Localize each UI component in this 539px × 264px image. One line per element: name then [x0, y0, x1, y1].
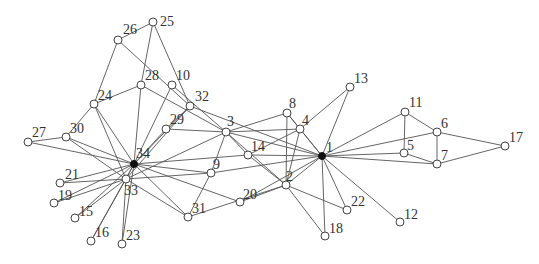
node-label: 17	[509, 130, 523, 145]
node-circle	[396, 218, 404, 226]
hub-node-circle	[319, 153, 326, 160]
node-circle	[433, 160, 441, 168]
node-12: 12	[396, 207, 418, 226]
edge-1-9	[211, 156, 322, 173]
edge-25-32	[153, 22, 190, 106]
edge-20-34	[134, 164, 240, 202]
node-circle	[50, 199, 58, 207]
edge-1-12	[322, 156, 400, 222]
node-3: 3	[222, 114, 234, 136]
node-label: 33	[124, 183, 138, 198]
node-20: 20	[236, 187, 257, 206]
node-8: 8	[283, 96, 296, 117]
node-27: 27	[24, 125, 46, 146]
node-label: 11	[409, 95, 422, 110]
node-label: 3	[227, 114, 234, 129]
node-7: 7	[433, 148, 448, 168]
node-label: 14	[251, 139, 265, 154]
node-label: 10	[176, 68, 190, 83]
node-19: 19	[50, 188, 72, 207]
node-circle	[118, 240, 126, 248]
node-24: 24	[90, 88, 112, 108]
node-label: 30	[70, 121, 84, 136]
node-2: 2	[282, 169, 293, 189]
node-label: 27	[32, 125, 46, 140]
node-label: 9	[213, 157, 220, 172]
node-label: 13	[354, 71, 368, 86]
node-label: 24	[98, 88, 112, 103]
node-label: 25	[160, 14, 174, 29]
edge-6-17	[437, 132, 505, 146]
node-label: 29	[170, 112, 184, 127]
edge-6-11	[405, 112, 437, 132]
node-30: 30	[62, 121, 84, 141]
node-label: 26	[123, 22, 137, 37]
edge-5-11	[404, 112, 405, 153]
edge-1-7	[322, 156, 437, 164]
node-label: 23	[126, 228, 140, 243]
edge-3-29	[166, 129, 226, 132]
edge-1-6	[322, 132, 437, 156]
edge-30-34	[66, 137, 134, 164]
node-circle	[343, 206, 351, 214]
node-circle	[149, 18, 157, 26]
node-circle	[90, 100, 98, 108]
node-25: 25	[149, 14, 174, 29]
node-circle	[401, 108, 409, 116]
node-4: 4	[296, 113, 309, 133]
node-circle	[137, 81, 145, 89]
node-circle	[122, 175, 130, 183]
node-31: 31	[184, 201, 206, 221]
node-circle	[62, 133, 70, 141]
edge-3-14	[226, 132, 248, 155]
node-circle	[184, 213, 192, 221]
node-6: 6	[433, 116, 448, 136]
node-layer: 1234567891011121314151617181920212223242…	[24, 14, 523, 248]
edge-27-34	[28, 142, 134, 164]
node-23: 23	[118, 228, 140, 248]
node-label: 28	[145, 68, 159, 83]
edge-31-34	[134, 164, 188, 217]
edge-1-3	[226, 132, 322, 156]
node-label: 22	[351, 194, 365, 209]
node-circle	[222, 128, 230, 136]
node-28: 28	[137, 68, 159, 89]
node-16: 16	[87, 225, 109, 245]
node-circle	[87, 237, 95, 245]
node-label: 15	[79, 204, 93, 219]
node-label: 32	[195, 89, 209, 104]
node-label: 2	[286, 169, 293, 184]
node-circle	[71, 214, 79, 222]
edge-1-22	[322, 156, 347, 210]
node-circle	[168, 81, 176, 89]
node-9: 9	[207, 157, 220, 177]
node-circle	[114, 36, 122, 44]
node-label: 4	[302, 113, 309, 128]
node-circle	[162, 125, 170, 133]
hub-node-circle	[131, 161, 138, 168]
edge-1-18	[322, 156, 325, 236]
node-label: 18	[329, 221, 343, 236]
edge-24-34	[94, 104, 134, 164]
node-label: 8	[289, 96, 296, 111]
node-13: 13	[346, 71, 368, 91]
node-label: 20	[243, 187, 257, 202]
node-34: 34	[131, 146, 151, 168]
node-10: 10	[168, 68, 190, 89]
node-circle	[501, 142, 509, 150]
node-label: 34	[136, 146, 150, 161]
node-label: 16	[95, 225, 109, 240]
node-circle	[433, 128, 441, 136]
node-label: 19	[58, 188, 72, 203]
node-circle	[321, 232, 329, 240]
node-15: 15	[71, 204, 93, 222]
node-label: 21	[65, 167, 79, 182]
node-circle	[56, 179, 64, 187]
node-circle	[186, 102, 194, 110]
node-circle	[24, 138, 32, 146]
edge-3-4	[226, 129, 300, 132]
node-label: 5	[407, 138, 414, 153]
edge-3-8	[226, 113, 287, 132]
node-14: 14	[244, 139, 265, 159]
node-label: 31	[192, 201, 206, 216]
